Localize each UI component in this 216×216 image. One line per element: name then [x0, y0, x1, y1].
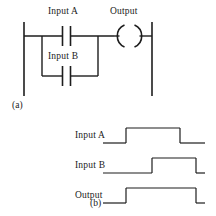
waveform-output: [103, 188, 205, 203]
waveform-input-b: [103, 158, 205, 173]
timing-diagram-graphics: [0, 0, 216, 216]
figure-canvas: Input A Input B Output (a): [0, 0, 216, 216]
waveform-input-a: [103, 128, 205, 143]
timing-label-input-a: Input A: [75, 131, 105, 141]
timing-label-input-b: Input B: [75, 161, 105, 171]
figure-part-b-caption: (b): [90, 199, 101, 209]
